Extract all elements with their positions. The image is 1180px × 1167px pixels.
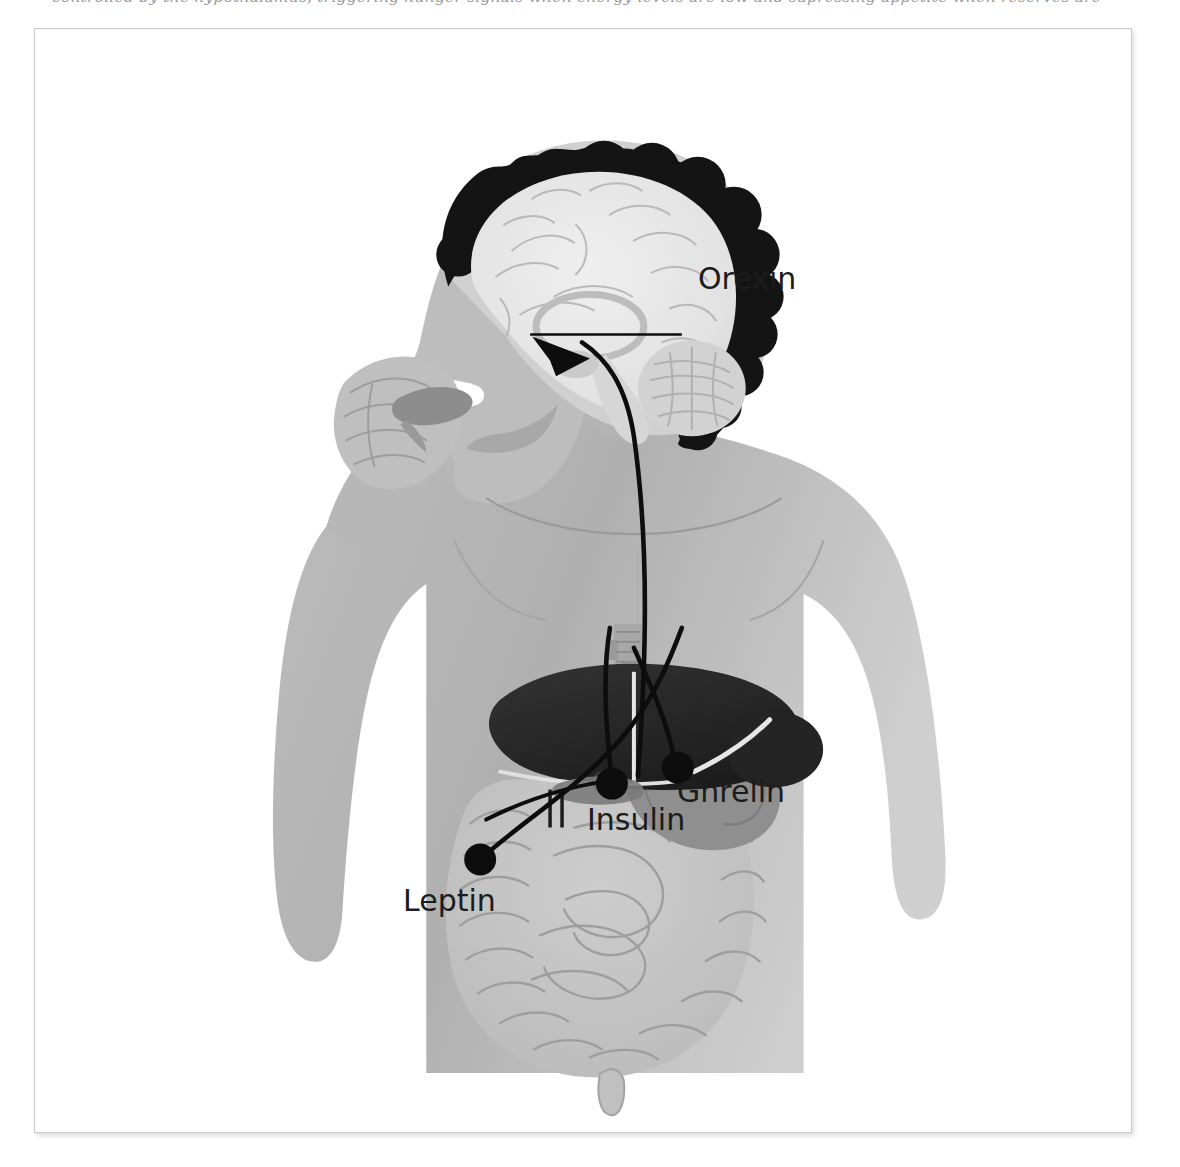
sigmoid-tail <box>598 1069 624 1115</box>
caption-fragment-text: controlled by the hypothalamus, triggeri… <box>52 0 1101 6</box>
label-orexin: Orexin <box>698 264 796 294</box>
anatomy-illustration <box>35 29 1131 1132</box>
insulin-source-dot <box>596 768 628 800</box>
cerebellum <box>638 340 746 436</box>
leptin-source-dot <box>464 844 496 876</box>
figure-frame: Orexin Ghrelin Insulin Leptin <box>34 28 1132 1133</box>
label-leptin: Leptin <box>403 886 496 916</box>
anatomy-svg <box>35 29 1131 1132</box>
label-insulin: Insulin <box>587 805 685 835</box>
label-ghrelin: Ghrelin <box>677 777 785 807</box>
caption-fragment: controlled by the hypothalamus, triggeri… <box>0 0 1180 13</box>
